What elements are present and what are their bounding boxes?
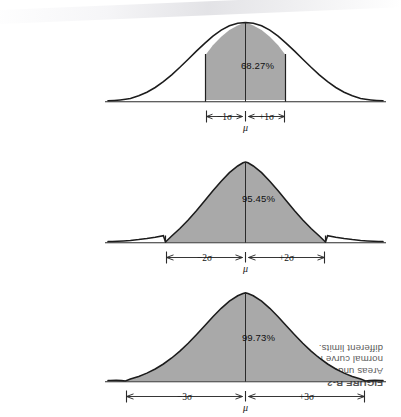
figure-plot-area: +3σ −3σ μ 99.73% [100, 0, 391, 417]
sigma-label-right-2sigma: −2σ [197, 253, 212, 263]
area-percent-label-1sigma: 68.27% [241, 60, 275, 71]
normal-curve-panel-2sigma: +2σ −2σ μ 95.45% [100, 139, 391, 278]
sigma-label-left-1sigma: +1σ [259, 112, 274, 122]
sigma-label-left-3sigma: +3σ [299, 392, 314, 402]
area-percent-label-2sigma: 95.45% [242, 193, 276, 204]
mean-label-3sigma: μ [242, 402, 248, 413]
mean-label-2sigma: μ [242, 263, 248, 274]
normal-curve-panel-1sigma: +1σ −1σ μ 68.27% [100, 0, 391, 139]
sigma-label-right-3sigma: −3σ [177, 392, 192, 402]
sigma-label-left-2sigma: +2σ [279, 253, 294, 263]
normal-curve-panel-3sigma: +3σ −3σ μ 99.73% [100, 278, 391, 417]
area-percent-label-3sigma: 99.73% [242, 332, 276, 343]
mean-label-1sigma: μ [242, 122, 248, 133]
sigma-label-right-1sigma: −1σ [217, 112, 232, 122]
